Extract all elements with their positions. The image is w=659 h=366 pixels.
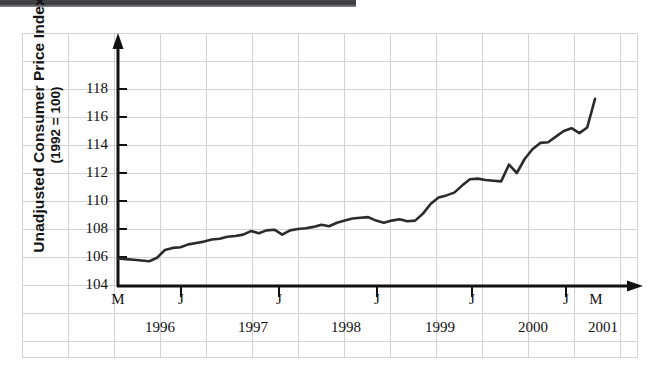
x-tick-label-5: J — [555, 292, 577, 307]
y-tick-label-112: 112 — [74, 165, 108, 180]
y-axis-arrowhead — [113, 33, 124, 49]
cpi-data-line — [118, 99, 595, 261]
x-year-label-2001: 2001 — [579, 320, 627, 335]
y-tick-label-108: 108 — [74, 221, 108, 236]
x-year-label-1999: 1999 — [416, 320, 464, 335]
x-tick-label-0: M — [107, 292, 129, 307]
y-tick-label-110: 110 — [74, 193, 108, 208]
cpi-line-chart: Unadjusted Consumer Price Index (1992 = … — [0, 0, 659, 366]
x-tick-label-6: M — [585, 292, 607, 307]
x-year-label-1996: 1996 — [136, 320, 184, 335]
y-tick-label-104: 104 — [74, 277, 108, 292]
x-tick-label-1: J — [170, 292, 192, 307]
x-year-label-1998: 1998 — [322, 320, 370, 335]
plot-area — [0, 0, 659, 366]
x-axis-arrowhead — [627, 281, 643, 292]
x-year-label-1997: 1997 — [229, 320, 277, 335]
y-tick-label-114: 114 — [74, 137, 108, 152]
y-tick-label-106: 106 — [74, 249, 108, 264]
y-tick-label-118: 118 — [74, 81, 108, 96]
x-tick-label-3: J — [366, 292, 388, 307]
x-tick-label-2: J — [268, 292, 290, 307]
x-tick-label-4: J — [461, 292, 483, 307]
y-tick-label-116: 116 — [74, 109, 108, 124]
x-year-label-2000: 2000 — [509, 320, 557, 335]
